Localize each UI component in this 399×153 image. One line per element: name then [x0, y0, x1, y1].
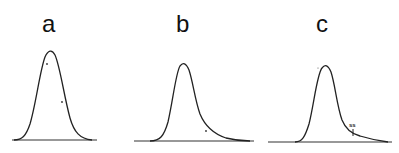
peak-curve-b	[150, 64, 250, 141]
panel-label-b: b	[176, 10, 189, 37]
marker-dot	[46, 63, 48, 65]
panel-label-c: c	[316, 10, 328, 37]
figure-panels: a b c ss	[0, 0, 399, 153]
annotation-ss: ss	[349, 122, 356, 128]
marker-dot	[205, 130, 207, 132]
peak-curve-a	[14, 51, 92, 140]
panel-b: b	[134, 10, 254, 141]
panel-c: c ss	[268, 10, 392, 142]
peak-curve-c	[295, 66, 388, 142]
panel-label-a: a	[42, 10, 56, 37]
panel-a: a	[12, 10, 97, 140]
marker-dot	[61, 101, 63, 103]
marker-dot	[318, 68, 319, 69]
